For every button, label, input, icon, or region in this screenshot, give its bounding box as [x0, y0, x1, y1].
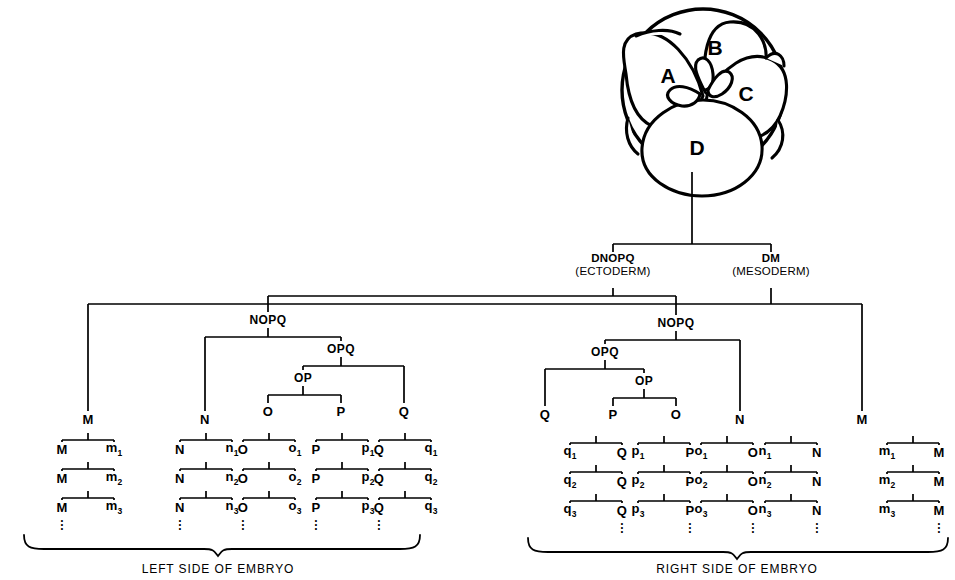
- side-braces: [0, 0, 955, 580]
- caption-left-side: LEFT SIDE OF EMBRYO: [142, 562, 295, 576]
- caption-right-side: RIGHT SIDE OF EMBRYO: [656, 562, 818, 576]
- lineage-diagram: A B C D DNOPQ (ECTODERM): [0, 0, 955, 580]
